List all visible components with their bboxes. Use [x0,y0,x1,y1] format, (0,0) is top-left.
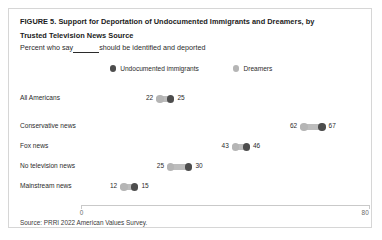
value-label-low: 12 [110,182,117,189]
fill-in-blank [73,45,99,53]
row-category-label: Mainstream news [20,182,72,189]
dot-dreamers[interactable] [232,143,239,150]
dot-undocumented-immigrants[interactable] [167,95,174,102]
legend-label: Undocumented immigrants [120,65,199,72]
plot-row[interactable]: All Americans2225 [9,91,373,107]
chart-legend: Undocumented immigrantsDreamers [9,65,373,72]
row-track: 4346 [77,139,365,155]
legend-label: Dreamers [243,65,272,72]
value-label-high: 25 [177,94,184,101]
value-label-low: 22 [146,94,153,101]
value-label-low: 62 [290,122,297,129]
dot-plot-area: All Americans2225Conservative news6267Fo… [9,87,373,203]
value-label-high: 15 [141,182,148,189]
figure-title-line-1: FIGURE 5. Support for Deportation of Und… [20,15,360,29]
row-category-label: Fox news [20,142,48,149]
row-track: 2225 [77,91,365,107]
legend-item-2[interactable]: Dreamers [233,65,272,72]
figure-card: FIGURE 5. Support for Deportation of Und… [8,8,372,228]
value-label-high: 67 [329,122,336,129]
row-track: 6267 [77,119,365,135]
figure-title: FIGURE 5. Support for Deportation of Und… [20,15,360,42]
figure-subtitle: Percent who sayshould be identified and … [20,42,205,53]
dot-undocumented-immigrants[interactable] [185,163,192,170]
dot-undocumented-immigrants[interactable] [318,123,325,130]
row-track: 2530 [77,159,365,175]
dot-dreamers[interactable] [300,123,307,130]
x-axis-line [81,205,369,206]
row-category-label: All Americans [20,94,60,101]
dot-undocumented-immigrants[interactable] [131,183,138,190]
row-category-label: Conservative news [20,122,76,129]
dot-dreamers[interactable] [156,95,163,102]
dot-dreamers[interactable] [120,183,127,190]
row-track: 1215 [77,179,365,195]
figure-title-line-2: Trusted Television News Source [20,29,360,43]
value-label-low: 25 [157,162,164,169]
figure-subtitle-prefix: Percent who say [20,43,73,52]
source-note: Source: PRRI 2022 American Values Survey… [20,219,147,226]
plot-row[interactable]: Fox news4346 [9,139,373,155]
x-axis-label-min: 0 [80,209,84,216]
x-axis-tick-max [369,205,370,209]
plot-row[interactable]: Mainstream news1215 [9,179,373,195]
dot-undocumented-immigrants[interactable] [243,143,250,150]
value-label-low: 43 [222,142,229,149]
x-axis-tick-min [81,205,82,209]
value-label-high: 46 [253,142,260,149]
plot-row[interactable]: Conservative news6267 [9,119,373,135]
row-category-label: No television news [20,162,75,169]
value-label-high: 30 [195,162,202,169]
circle-marker-icon [110,65,117,72]
circle-marker-icon [233,65,240,72]
x-axis-label-max: 80 [362,209,369,216]
plot-row[interactable]: No television news2530 [9,159,373,175]
dot-dreamers[interactable] [167,163,174,170]
figure-subtitle-suffix: should be identified and deported [99,43,205,52]
legend-item-1[interactable]: Undocumented immigrants [110,65,199,72]
